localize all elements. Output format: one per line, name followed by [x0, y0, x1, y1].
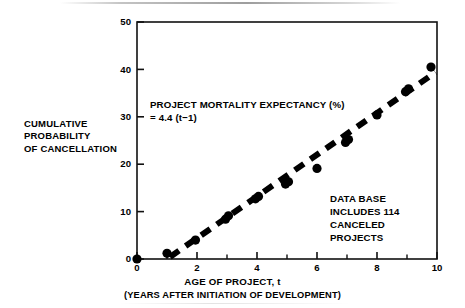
y-axis-ticks [137, 22, 144, 259]
data-point [372, 110, 381, 119]
data-point [312, 164, 321, 173]
y-axis-title-line-3: OF CANCELLATION [24, 143, 117, 155]
y-tick-label-10: 10 [105, 206, 131, 217]
y-tick-label-40: 40 [105, 64, 131, 75]
annotation-formula: PROJECT MORTALITY EXPECTANCY (%) = 4.4 (… [150, 98, 345, 124]
x-tick-label-8: 8 [364, 262, 390, 273]
data-point [254, 192, 263, 201]
data-point [284, 177, 293, 186]
x-tick-label-2: 2 [184, 262, 210, 273]
x-axis-subtitle: (YEARS AFTER INITIATION OF DEVELOPMENT) [0, 290, 465, 300]
x-tick-label-4: 4 [244, 262, 270, 273]
x-tick-label-10: 10 [424, 262, 450, 273]
data-point [224, 211, 233, 220]
annotation-formula-line-2: = 4.4 (t−1) [150, 111, 345, 124]
x-tick-label-0: 0 [124, 262, 150, 273]
data-point [344, 135, 353, 144]
annotation-formula-line-1: PROJECT MORTALITY EXPECTANCY (%) [150, 98, 345, 111]
y-axis-title-line-2: PROBABILITY [24, 130, 117, 142]
annotation-database-note: DATA BASE INCLUDES 114 CANCELED PROJECTS [330, 192, 400, 244]
annotation-database-line-1: DATA BASE [330, 192, 400, 205]
x-tick-label-6: 6 [304, 262, 330, 273]
data-point [162, 249, 171, 258]
annotation-database-line-4: PROJECTS [330, 231, 400, 244]
y-axis-title: CUMULATIVE PROBABILITY OF CANCELLATION [24, 118, 117, 155]
y-tick-label-20: 20 [105, 158, 131, 169]
data-point [426, 62, 435, 71]
data-point [191, 235, 200, 244]
annotation-database-line-2: INCLUDES 114 [330, 205, 400, 218]
annotation-database-line-3: CANCELED [330, 218, 400, 231]
y-tick-label-50: 50 [105, 16, 131, 27]
y-axis-title-line-1: CUMULATIVE [24, 118, 117, 130]
chart-page: 0 10 20 30 40 50 0 2 4 6 8 10 CUMULATIVE… [0, 0, 465, 308]
x-axis-title: AGE OF PROJECT, t [0, 276, 465, 287]
data-point [404, 84, 413, 93]
